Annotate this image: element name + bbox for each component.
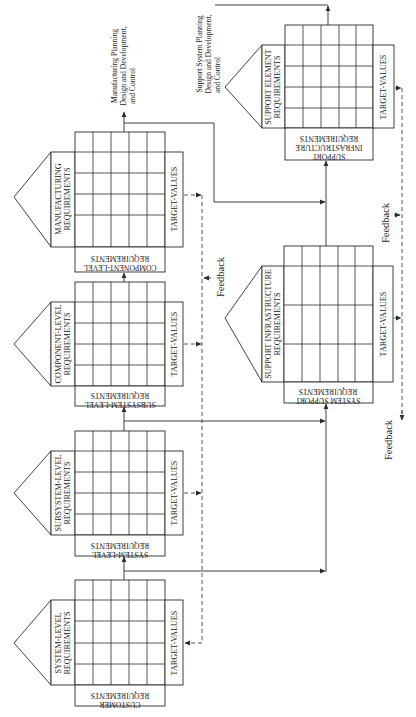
- base-label-line1: CUSTOMER: [98, 700, 140, 709]
- roof-triangle: [14, 152, 51, 247]
- roof-label-line1: SUBSYSTEM-LEVEL: [54, 455, 63, 532]
- roof-label-line2: REQUIREMENTS: [63, 167, 72, 231]
- target-values-label: TARGET-VALUES: [170, 311, 179, 376]
- roof-label-line2: REQUIREMENTS: [63, 312, 72, 376]
- feedback-label-left: Feedback: [215, 256, 226, 297]
- house-system-level: SYSTEM-LEVEL REQUIREMENTS TARGET-VALUES …: [14, 580, 183, 709]
- support-output-line3: and Control: [213, 57, 222, 93]
- feedback-label-right-upper: Feedback: [380, 202, 391, 243]
- target-values-label: TARGET-VALUES: [379, 291, 388, 356]
- roof-label-line2: REQUIREMENTS: [63, 611, 72, 675]
- manufacturing-output-line3: and Control: [128, 68, 137, 104]
- roof-triangle: [225, 45, 262, 128]
- base-label-line1: COMPONENT-LEVEL: [83, 263, 156, 272]
- roof-label-line1: SUPPORT INFRASTRUCTURE: [264, 269, 273, 379]
- relationship-grid: [75, 580, 165, 685]
- base-label-line1: SYSTEM SUPPORT: [295, 396, 360, 405]
- base-label-line1: SUPPORT: [312, 152, 345, 161]
- base-label-line2: REQUIREMENTS: [91, 541, 150, 550]
- qfd-cascade-diagram: MANUFACTURING REQUIREMENTS TARGET-VALUES…: [0, 0, 416, 717]
- relationship-grid: [75, 431, 165, 535]
- roof-triangle: [14, 600, 51, 685]
- support-output-line1: Support System Planning: [195, 15, 204, 92]
- target-values-label: TARGET-VALUES: [379, 54, 388, 119]
- roof-triangle: [14, 302, 51, 386]
- feedback-label-right-lower: Feedback: [383, 419, 394, 460]
- roof-label-line2: REQUIREMENTS: [63, 461, 72, 525]
- manufacturing-output-line1: Manufacturing Planning: [110, 29, 119, 103]
- roof-triangle: [225, 266, 262, 382]
- base-label-line1: SUBSYSTEM-LEVEL: [84, 400, 156, 409]
- manufacturing-output-line2: Design and Development,: [119, 26, 128, 105]
- house-support-element: SUPPORT ELEMENT REQUIREMENTS TARGET-VALU…: [225, 25, 394, 161]
- house-support-infrastructure: SUPPORT INFRASTRUCTURE REQUIREMENTS TARG…: [225, 246, 393, 405]
- target-values-label: TARGET-VALUES: [170, 610, 179, 675]
- house-subsystem-level: SUBSYSTEM-LEVEL REQUIREMENTS TARGET-VALU…: [14, 431, 183, 559]
- roof-label-line1: COMPONENT-LEVEL: [54, 305, 63, 384]
- base-label-line3: REQUIREMENTS: [300, 134, 359, 143]
- roof-label-line1: SUPPORT ELEMENT: [264, 49, 273, 125]
- target-values-label: TARGET-VALUES: [170, 166, 179, 231]
- roof-label-line1: SYSTEM-LEVEL: [54, 613, 63, 674]
- relationship-grid: [285, 25, 373, 128]
- house-manufacturing: MANUFACTURING REQUIREMENTS TARGET-VALUES…: [14, 132, 183, 272]
- base-label-line1: SYSTEM-LEVEL: [91, 550, 148, 559]
- roof-label-line2: REQUIREMENTS: [273, 292, 282, 356]
- base-label-line2: REQUIREMENTS: [91, 254, 150, 263]
- support-output-line2: Design and Development,: [204, 14, 213, 93]
- base-label-line2: REQUIREMENTS: [299, 387, 358, 396]
- output-annotations: Manufacturing Planning Design and Develo…: [110, 14, 222, 105]
- base-label-line2: REQUIREMENTS: [91, 691, 150, 700]
- base-label-line2: REQUIREMENTS: [91, 391, 150, 400]
- target-values-label: TARGET-VALUES: [170, 460, 179, 525]
- relationship-grid: [75, 132, 165, 247]
- base-label-line2: INFRASTRUCTURE: [295, 143, 362, 152]
- roof-triangle: [14, 451, 51, 535]
- relationship-grid: [75, 282, 165, 386]
- roof-label-line1: MANUFACTURING: [54, 163, 63, 234]
- house-component-level: COMPONENT-LEVEL REQUIREMENTS TARGET-VALU…: [14, 282, 183, 409]
- roof-label-line2: REQUIREMENTS: [273, 55, 282, 119]
